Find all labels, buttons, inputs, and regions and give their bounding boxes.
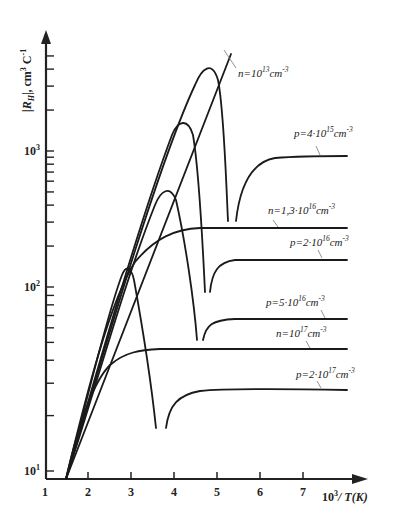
x-tick-label: 4 [171,485,177,499]
y-tick-label: 101 [24,463,40,478]
series-labels: n=1013cm-3p=4·1015cm-3n=1,3·1016cm-3p=2·… [224,50,355,388]
data-curve [66,54,231,479]
label-leader-line [321,310,325,318]
x-tick-label: 5 [214,485,220,499]
series-label: p=2·1016cm-3 [289,234,349,248]
x-axis-arrow-icon [352,474,368,484]
series-label: p=5·1016cm-3 [265,294,325,308]
series-label: p=2·1017cm-3 [295,366,355,380]
series-label: n=1013cm-3 [238,65,289,79]
hall-coefficient-chart: 1234567103/ T(K)101102103|RH|, cm3 C-1 n… [0,0,400,526]
label-leader-line [306,341,310,348]
data-curve [166,389,347,428]
y-axis-title: |RH|, cm3 C-1 [19,49,36,112]
series-label: n=1017cm-3 [276,325,327,339]
data-curve [66,228,347,479]
series-label: p=4·1015cm-3 [293,125,353,139]
label-leader-line [316,146,320,155]
axes: 1234567103/ T(K)101102103|RH|, cm3 C-1 [19,30,368,504]
label-leader-line [318,250,322,258]
x-tick-label: 2 [85,485,91,499]
y-tick-label: 102 [24,279,40,294]
y-tick-label: 103 [24,143,40,158]
series-label: n=1,3·1016cm-3 [268,202,335,216]
curves [66,54,347,479]
x-tick-label: 6 [257,485,263,499]
label-leader-line [317,381,321,388]
y-axis-arrow-icon [41,30,51,44]
data-curve [66,268,156,479]
x-tick-label: 7 [300,485,306,499]
x-tick-label: 3 [128,485,134,499]
data-curve [66,191,197,479]
x-tick-label: 1 [42,485,48,499]
label-leader-line [273,220,278,227]
data-curve [210,260,347,292]
x-axis-title: 103/ T(K) [322,489,368,504]
